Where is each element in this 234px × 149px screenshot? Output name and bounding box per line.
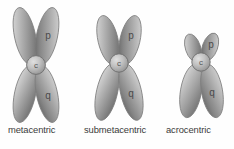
acrocentric-q-label: q [209, 87, 215, 98]
acrocentric-centromere-label: c [199, 58, 203, 67]
chromosome-metacentric: c p q [9, 5, 64, 124]
chromosome-label-acrocentric: acrocentric [166, 124, 211, 135]
metacentric-p-label: p [45, 30, 51, 41]
chromosome-label-metacentric: metacentric [8, 124, 55, 135]
chromosome-acrocentric: c p q [176, 31, 227, 120]
chromosome-submetacentric: c p q [90, 13, 148, 122]
chromosome-label-submetacentric: submetacentric [84, 124, 146, 135]
submetacentric-centromere-label: c [117, 59, 121, 68]
acrocentric-p-label: p [208, 39, 214, 50]
metacentric-centromere-label: c [34, 61, 38, 70]
submetacentric-q-label: q [128, 88, 134, 99]
chromosome-diagram-figure: c p q c p q c p q metacentric submeta [0, 0, 234, 149]
metacentric-q-label: q [45, 90, 51, 101]
submetacentric-p-label: p [128, 30, 134, 41]
